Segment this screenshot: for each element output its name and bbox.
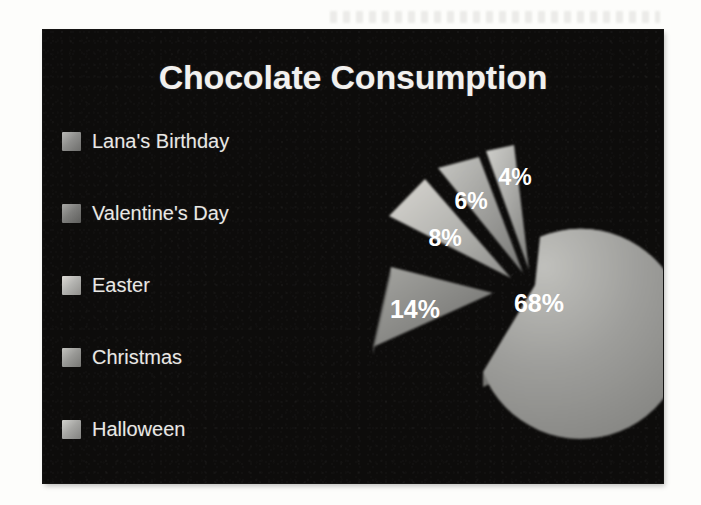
legend-item-label: Halloween (92, 418, 185, 441)
legend-swatch-icon (62, 204, 81, 223)
pie-slice-value-label-christmas: 6% (454, 188, 487, 214)
legend-item-label: Christmas (92, 346, 182, 369)
pie-slice-value-label-halloween: 4% (498, 164, 531, 190)
legend-item-lanas-birthday[interactable]: Lana's Birthday (62, 128, 312, 154)
legend-item-valentines-day[interactable]: Valentine's Day (62, 200, 312, 226)
legend-swatch-icon (62, 132, 81, 151)
legend-item-halloween[interactable]: Halloween (62, 416, 312, 442)
legend-swatch-icon (62, 276, 81, 295)
pie-slice-lanas-birthday[interactable] (483, 229, 663, 439)
pie-chart-svg: 68% 14% 8% 6% 4% (333, 115, 663, 445)
legend-item-easter[interactable]: Easter (62, 272, 312, 298)
pie-chart: 68% 14% 8% 6% 4% (333, 115, 663, 445)
legend-item-label: Easter (92, 274, 150, 297)
chart-legend: Lana's Birthday Valentine's Day Easter C… (62, 128, 312, 483)
scan-bleedthrough-artifact (330, 11, 660, 23)
pie-slice-value-label-lanas-birthday: 68% (514, 289, 564, 317)
legend-swatch-icon (62, 348, 81, 367)
legend-item-label: Valentine's Day (92, 202, 229, 225)
legend-swatch-icon (62, 420, 81, 439)
legend-item-christmas[interactable]: Christmas (62, 344, 312, 370)
chart-slide-panel: Chocolate Consumption Lana's Birthday Va… (43, 30, 663, 483)
page-title: Chocolate Consumption (43, 58, 663, 97)
legend-item-label: Lana's Birthday (92, 130, 229, 153)
scanned-page-background: Chocolate Consumption Lana's Birthday Va… (0, 0, 701, 505)
pie-slice-value-label-valentines-day: 14% (390, 295, 440, 323)
pie-slice-value-label-easter: 8% (428, 225, 461, 251)
